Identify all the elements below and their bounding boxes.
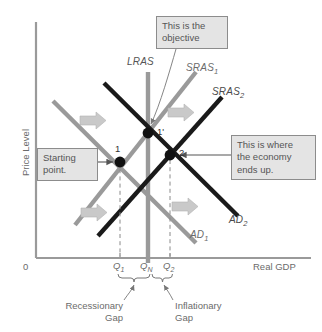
gap-leaders <box>124 285 173 300</box>
gap-inflationary-line2: Gap <box>175 312 265 324</box>
point-1-prime-dot <box>143 128 154 139</box>
point-2-dot <box>165 150 176 161</box>
brace-inflationary <box>152 274 173 282</box>
brace-recessionary <box>118 274 150 282</box>
point-label-1: 1 <box>115 144 120 155</box>
point-1-dot <box>115 157 126 168</box>
curve-label-ad1: AD1 <box>190 229 209 244</box>
callout-economy-line2: the economy <box>237 151 310 163</box>
shift-arrow-lower-right <box>172 198 198 215</box>
tick-label-q2: Q2 <box>163 261 174 274</box>
callout-starting-line1: Starting <box>43 152 92 164</box>
leader-inflationary <box>164 285 173 300</box>
callout-economy-line3: ends up. <box>237 164 310 176</box>
ad-as-diagram: Price Level Real GDP 0 Q1 QN Q2 LRAS SRA… <box>0 0 322 332</box>
shift-arrow-lower-left <box>81 204 107 221</box>
gap-recessionary-line2: Gap <box>33 312 123 324</box>
point-label-2: 2 <box>179 148 184 159</box>
tick-label-qn: QN <box>140 261 152 274</box>
curve-label-sras2: SRAS2 <box>212 86 244 101</box>
callout-starting-line2: point. <box>43 164 92 176</box>
point-label-1-prime: 1' <box>157 127 164 138</box>
callout-objective-line2: objective <box>162 32 222 44</box>
gap-label-inflationary: Inflationary Gap <box>175 300 265 324</box>
y-axis-label: Price Level <box>20 129 31 176</box>
origin-label: 0 <box>23 262 28 273</box>
shift-arrow-upper-right <box>168 104 194 121</box>
callout-objective-line1: This is the <box>162 20 222 32</box>
shift-arrow-upper-left <box>80 112 106 129</box>
curve-label-sras1: SRAS1 <box>186 62 218 77</box>
callout-economy-ends-up: This is where the economy ends up. <box>231 135 316 180</box>
callout-economy-line1: This is where <box>237 139 310 151</box>
gap-braces <box>118 274 173 282</box>
gap-recessionary-line1: Recessionary <box>33 300 123 312</box>
gap-label-recessionary: Recessionary Gap <box>33 300 123 324</box>
curve-label-ad2: AD2 <box>229 214 248 229</box>
callout-starting-point: Starting point. <box>37 148 98 181</box>
x-axis-label: Real GDP <box>253 262 296 273</box>
tick-label-q1: Q1 <box>113 261 124 274</box>
curve-label-lras: LRAS <box>127 56 154 68</box>
gap-inflationary-line1: Inflationary <box>175 300 265 312</box>
callout-objective: This is the objective <box>156 16 228 49</box>
leader-recessionary <box>124 285 134 300</box>
